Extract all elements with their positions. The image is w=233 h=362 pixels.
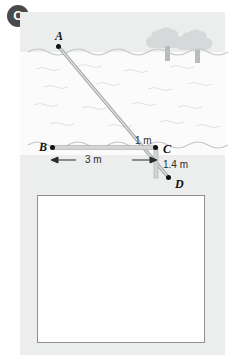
point-d-label: D — [175, 178, 184, 190]
point-c-label: C — [163, 143, 171, 155]
measurement-3m-label: 3 m — [85, 155, 102, 165]
answer-box[interactable] — [37, 195, 205, 343]
point-a-label: A — [55, 30, 63, 42]
segment-bc-bar — [51, 146, 156, 150]
measurement-1m-label: 1 m — [135, 136, 152, 146]
water-ripples — [34, 65, 220, 128]
point-c-dot — [153, 145, 158, 150]
diagram-panel: A B C D 1 m 3 m 1.4 m — [20, 12, 225, 355]
point-a-dot — [56, 44, 61, 49]
tree-right-icon — [176, 29, 212, 63]
dimension-3m — [51, 157, 157, 163]
segment-cd-bar — [154, 147, 158, 178]
point-b-label: B — [39, 141, 47, 153]
question-card: C — [0, 0, 233, 362]
point-b-dot — [50, 145, 55, 150]
point-d-dot — [166, 175, 171, 180]
measurement-14m-label: 1.4 m — [163, 160, 188, 170]
